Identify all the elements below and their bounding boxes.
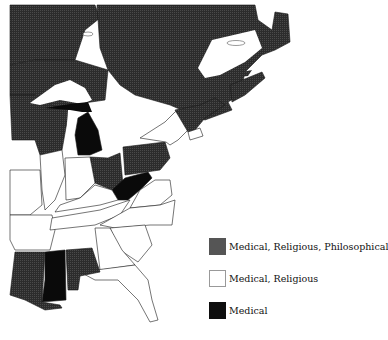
legend-item-med-rel-phil: Medical, Religious, Philosophical	[209, 238, 388, 255]
legend-swatch-dark-gray	[209, 238, 226, 255]
legend-swatch-black	[209, 302, 226, 319]
mississippi	[42, 250, 66, 302]
legend-item-med-rel: Medical, Religious	[209, 270, 318, 287]
alabama	[66, 248, 100, 290]
legend-label: Medical, Religious	[229, 273, 318, 284]
legend-label: Medical	[229, 305, 268, 316]
legend-label: Medical, Religious, Philosophical	[229, 241, 388, 252]
legend-swatch-white	[209, 270, 226, 287]
legend-item-medical: Medical	[209, 302, 268, 319]
